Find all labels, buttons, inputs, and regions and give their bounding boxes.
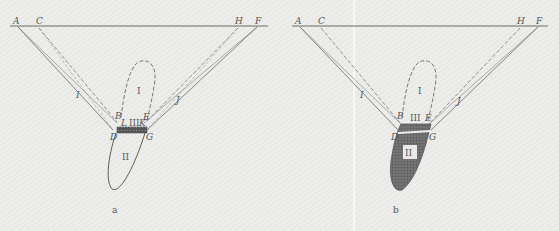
point-f-label: F [254,16,262,26]
point-h-label-b: H [516,16,525,26]
figure-page: A C H F I J B E L K D G I III II a [0,0,559,231]
caption-b: b [393,205,399,215]
ray-f-to-e-b [429,27,538,124]
point-i-label-b: I [359,90,364,100]
point-d-label: D [109,132,117,142]
point-c-label: C [36,16,43,26]
ray-a-to-l [18,27,117,123]
dashed-ray-c-b [321,28,401,124]
point-f-label-b: F [535,16,543,26]
panel-a: A C H F I J B E L K D G I III II a [10,16,268,215]
panel-b: A C H F I J B E D G I III II b [292,16,548,215]
region-ii-label-b: II [405,148,413,158]
ray-a-to-b-b [300,27,401,124]
point-a-label: A [12,16,20,26]
dashed-ray-h-g [147,28,238,130]
dashed-ray-h [146,28,238,122]
dashed-ray-c-d [39,28,113,130]
point-j-label: J [174,95,181,105]
diagram-canvas: A C H F I J B E L K D G I III II a [0,0,559,231]
region-iii-label-a: III [129,118,140,128]
point-e-label-b: E [424,113,432,123]
point-d-label-b: D [390,132,398,142]
dashed-ray-h-b [429,28,520,124]
point-g-label-b: G [429,132,436,142]
ray-f-to-g [147,27,257,130]
point-c-label-b: C [318,16,325,26]
region-i-label-a: I [137,86,141,96]
point-b-label-b: B [396,111,404,121]
point-a-label-b: A [294,16,302,26]
dashed-ray-c [39,28,117,122]
point-h-label: H [234,16,243,26]
region-ii-label-a: II [122,152,130,162]
point-l-label: L [120,118,127,128]
region-i-label-b: I [418,86,422,96]
ray-a-to-d [18,27,113,130]
caption-a: a [112,205,118,215]
point-i-label: I [75,90,80,100]
ray-a-to-d-b [300,27,399,131]
ray-f-to-g-b [431,27,538,130]
ray-f-to-k [144,27,257,123]
region-iii-label-b: III [410,113,421,123]
point-g-label: G [146,132,153,142]
